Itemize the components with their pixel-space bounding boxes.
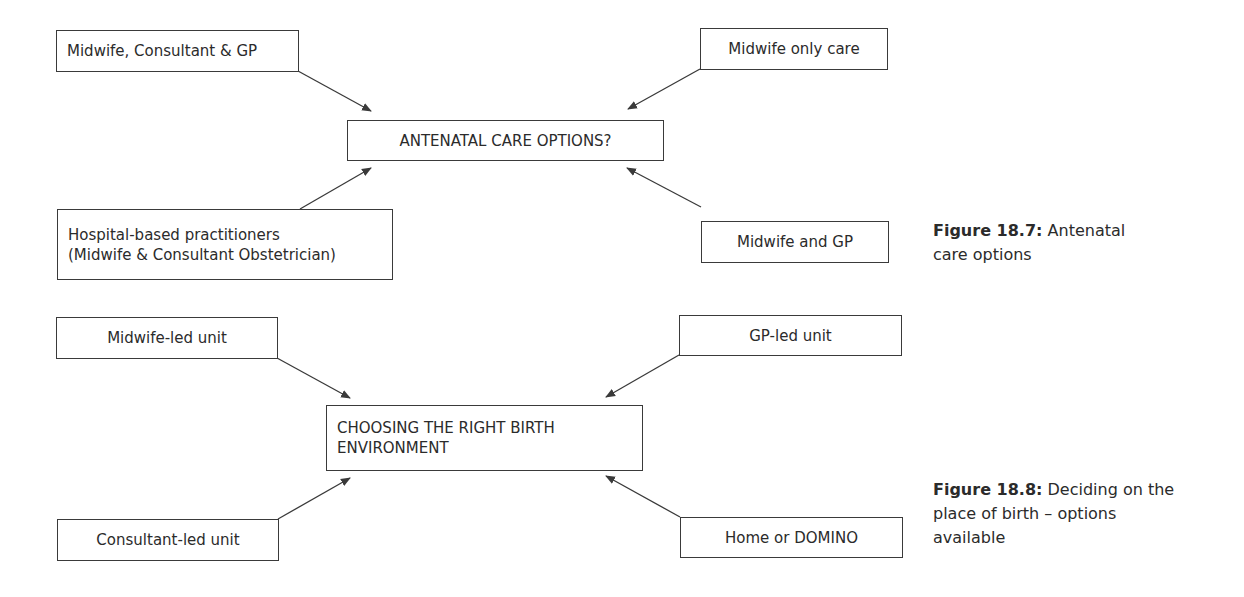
option-label: Consultant-led unit xyxy=(96,530,239,550)
option-midwife-only: Midwife only care xyxy=(700,28,888,70)
arrow-icon xyxy=(277,358,350,398)
option-label: Midwife, Consultant & GP xyxy=(67,41,257,61)
arrow-icon xyxy=(298,71,371,111)
arrow-icon xyxy=(606,355,679,397)
caption-label: Figure 18.7: xyxy=(933,221,1042,240)
option-label: GP-led unit xyxy=(749,326,832,346)
center-antenatal-care-options: ANTENATAL CARE OPTIONS? xyxy=(347,120,664,161)
option-midwife-and-gp: Midwife and GP xyxy=(701,221,889,263)
caption-label: Figure 18.8: xyxy=(933,480,1042,499)
figure-caption-18-7: Figure 18.7: Antenatal care options xyxy=(933,219,1163,267)
option-midwife-led-unit: Midwife-led unit xyxy=(56,317,278,359)
arrow-icon xyxy=(627,168,701,207)
arrow-icon xyxy=(278,478,350,519)
option-label: Midwife and GP xyxy=(737,232,853,252)
figure-caption-18-8: Figure 18.8: Deciding on the place of bi… xyxy=(933,478,1183,550)
center-label: ENVIRONMENT xyxy=(337,438,449,458)
option-midwife-consultant-gp: Midwife, Consultant & GP xyxy=(56,30,299,72)
center-label: ANTENATAL CARE OPTIONS? xyxy=(399,131,611,151)
center-choosing-birth-environment: CHOOSING THE RIGHT BIRTH ENVIRONMENT xyxy=(326,405,643,471)
option-home-or-domino: Home or DOMINO xyxy=(680,517,903,558)
option-gp-led-unit: GP-led unit xyxy=(679,315,902,356)
option-sublabel: (Midwife & Consultant Obstetrician) xyxy=(68,245,336,265)
option-consultant-led-unit: Consultant-led unit xyxy=(57,519,279,561)
center-label: CHOOSING THE RIGHT BIRTH xyxy=(337,418,555,438)
arrow-icon xyxy=(628,69,700,109)
option-label: Midwife only care xyxy=(728,39,859,59)
option-label: Home or DOMINO xyxy=(725,528,858,548)
arrow-icon xyxy=(606,476,680,517)
option-hospital-based: Hospital-based practitioners (Midwife & … xyxy=(57,209,393,280)
arrow-icon xyxy=(300,168,371,209)
option-label: Hospital-based practitioners xyxy=(68,225,280,245)
option-label: Midwife-led unit xyxy=(107,328,227,348)
